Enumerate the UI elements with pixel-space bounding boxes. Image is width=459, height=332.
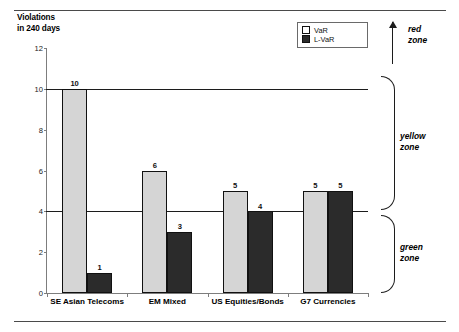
legend-label-lvar: L-VaR (314, 35, 334, 44)
y-tick-label: 6 (39, 166, 43, 175)
x-tick-mark (208, 293, 209, 297)
y-tick-label: 10 (35, 84, 43, 93)
x-tick-mark (368, 293, 369, 297)
bar-value-label: 3 (178, 222, 182, 231)
bar-group: 63 (142, 48, 192, 293)
y-axis-title: Violations in 240 days (17, 13, 60, 34)
bar-var-1[interactable]: 6 (142, 171, 167, 294)
x-tick-mark (47, 293, 48, 297)
green-zone-label-line1: green (400, 242, 423, 253)
x-tick-mark (288, 293, 289, 297)
bar-value-label: 1 (98, 263, 102, 272)
y-tick-mark (44, 48, 48, 49)
y-tick-mark (44, 171, 48, 172)
bar-value-label: 4 (258, 202, 262, 211)
y-tick-label: 0 (39, 289, 43, 298)
plot-area: 024681012101635455 (47, 48, 368, 293)
x-tick-mark (127, 293, 128, 297)
bar-l-var-0[interactable]: 1 (87, 273, 112, 293)
green-zone-label: green zone (400, 242, 423, 263)
bar-group: 54 (223, 48, 273, 293)
legend-swatch-var-icon (302, 26, 311, 35)
y-tick-label: 8 (39, 125, 43, 134)
yellow-zone-label-line1: yellow (400, 131, 426, 142)
legend-item-var: VaR (302, 26, 364, 35)
y-tick-mark (44, 130, 48, 131)
y-tick-label: 12 (35, 44, 43, 53)
bar-l-var-2[interactable]: 4 (248, 211, 273, 293)
y-axis-title-line1: Violations (17, 13, 60, 24)
yellow-zone-brace-icon (381, 76, 395, 210)
y-axis-title-line2: in 240 days (17, 24, 60, 35)
bar-value-label: 5 (233, 181, 237, 190)
red-zone-arrow-icon (392, 22, 393, 64)
bar-var-3[interactable]: 5 (303, 191, 328, 293)
bar-group: 55 (303, 48, 353, 293)
y-tick-label: 2 (39, 248, 43, 257)
red-zone-label-line1: red (408, 24, 427, 35)
red-zone-label: red zone (408, 24, 427, 45)
x-category-label: SE Asian Telecoms (50, 297, 124, 306)
bar-value-label: 5 (313, 181, 317, 190)
legend-swatch-lvar-icon (302, 35, 311, 44)
chart-legend: VaR L-VaR (297, 22, 368, 48)
x-category-label: US Equities/Bonds (211, 297, 283, 306)
green-zone-label-line2: zone (400, 253, 423, 264)
green-zone-brace-icon (381, 215, 395, 293)
bar-l-var-3[interactable]: 5 (328, 191, 353, 293)
yellow-zone-label: yellow zone (400, 131, 426, 152)
bar-value-label: 10 (70, 79, 78, 88)
bar-group: 101 (62, 48, 112, 293)
bar-var-0[interactable]: 10 (62, 89, 87, 293)
bar-var-2[interactable]: 5 (223, 191, 248, 293)
y-tick-label: 4 (39, 207, 43, 216)
red-zone-label-line2: zone (408, 35, 427, 46)
legend-label-var: VaR (314, 26, 328, 35)
y-tick-mark (44, 252, 48, 253)
x-category-label: G7 Currencies (300, 297, 355, 306)
yellow-zone-label-line2: zone (400, 142, 426, 153)
bar-value-label: 5 (338, 181, 342, 190)
x-category-label: EM Mixed (149, 297, 186, 306)
legend-item-lvar: L-VaR (302, 35, 364, 44)
bar-l-var-1[interactable]: 3 (167, 232, 192, 293)
top-rule (14, 10, 446, 11)
bar-value-label: 6 (153, 161, 157, 170)
bottom-rule (14, 321, 446, 322)
